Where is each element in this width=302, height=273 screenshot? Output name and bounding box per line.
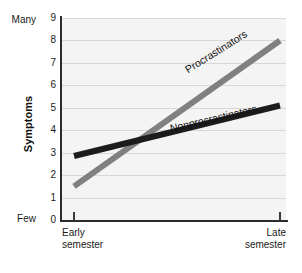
chart-container: Many Few Symptoms 9876543210 Procrastina… (0, 0, 302, 273)
x-axis-label-late-line1: Late (202, 227, 286, 239)
x-axis-label-late-semester: Late semester (202, 227, 286, 251)
y-axis-extreme-high-label: Many (2, 15, 36, 25)
y-axis-extreme-low-label: Few (2, 214, 36, 224)
x-axis-tick-mark-early (73, 212, 75, 221)
y-axis-tick-1: 1 (40, 193, 56, 203)
y-axis-tick-0: 0 (40, 215, 56, 225)
y-axis-tick-5: 5 (40, 103, 56, 113)
y-axis-tick-8: 8 (40, 35, 56, 45)
y-axis-tick-6: 6 (40, 80, 56, 90)
gridline (62, 40, 286, 41)
x-axis-line (60, 220, 288, 222)
x-axis-label-late-line2: semester (202, 239, 286, 251)
y-axis-line (60, 16, 62, 222)
gridline (62, 18, 286, 19)
plot-area (62, 18, 286, 220)
y-axis-tick-7: 7 (40, 58, 56, 68)
y-axis-tick-labels: 9876543210 (40, 0, 56, 273)
gridline (62, 85, 286, 86)
y-axis-title: Symptoms (22, 84, 34, 164)
x-axis-tick-mark-late (279, 212, 281, 221)
y-axis-tick-2: 2 (40, 170, 56, 180)
x-axis-label-early-line1: Early (62, 227, 146, 239)
x-axis-label-early-semester: Early semester (62, 227, 146, 251)
gridline (62, 198, 286, 199)
gridline (62, 153, 286, 154)
y-axis-tick-3: 3 (40, 148, 56, 158)
y-axis-tick-9: 9 (40, 13, 56, 23)
gridline (62, 175, 286, 176)
y-axis-tick-4: 4 (40, 125, 56, 135)
gridline (62, 63, 286, 64)
x-axis-label-early-line2: semester (62, 239, 146, 251)
